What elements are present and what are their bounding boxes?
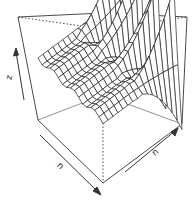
surface-mesh (38, 0, 182, 130)
y-axis-label: n (149, 146, 160, 157)
x-axis-label: n (55, 160, 66, 171)
z-axis-label: z (4, 74, 15, 81)
persp-plot: z n n (0, 0, 196, 202)
